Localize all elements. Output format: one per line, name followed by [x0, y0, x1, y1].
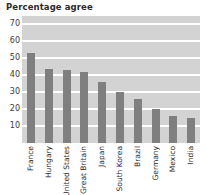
y-axis-tick-label: 30 — [10, 88, 20, 96]
x-axis-tick: Great Britain — [77, 143, 91, 195]
bar — [63, 70, 71, 143]
x-axis-tick-label: Germany — [149, 146, 163, 180]
x-axis-tick-label: South Korea — [113, 146, 127, 191]
bar — [169, 116, 177, 143]
y-axis-tick-label: 40 — [10, 71, 20, 79]
bar — [45, 69, 53, 144]
bar — [98, 82, 106, 143]
bar — [152, 109, 160, 143]
x-axis-tick-label: Brazil — [131, 146, 145, 167]
x-axis: FranceHungaryUnited StatesGreat BritainJ… — [22, 143, 200, 195]
x-axis-tick-label: France — [24, 146, 38, 171]
plot-area — [22, 16, 200, 143]
x-axis-tick-label: Hungary — [42, 146, 56, 178]
bar — [187, 118, 195, 143]
x-axis-tick-label: Great Britain — [77, 146, 91, 194]
gridline — [22, 40, 200, 42]
x-axis-tick-label: Japan — [95, 146, 109, 167]
x-axis-tick: France — [24, 143, 38, 195]
x-axis-tick: Germany — [149, 143, 163, 195]
bar — [134, 99, 142, 143]
x-axis-tick: Mexico — [166, 143, 180, 195]
y-axis: 10203040506070 — [0, 16, 22, 143]
y-axis-tick-label: 50 — [10, 54, 20, 62]
gridline — [22, 23, 200, 25]
x-axis-tick: Brazil — [131, 143, 145, 195]
x-axis-tick: United States — [60, 143, 74, 195]
x-axis-tick-label: India — [184, 146, 198, 164]
bar — [80, 72, 88, 143]
x-axis-tick: Japan — [95, 143, 109, 195]
x-axis-tick-label: United States — [60, 146, 74, 195]
chart-title: Percentage agree — [6, 2, 93, 12]
y-axis-tick-label: 10 — [10, 122, 20, 130]
y-axis-tick-label: 70 — [10, 20, 20, 28]
gridline — [22, 57, 200, 59]
bar — [27, 53, 35, 143]
y-axis-tick-label: 20 — [10, 105, 20, 113]
x-axis-tick: India — [184, 143, 198, 195]
x-axis-tick: South Korea — [113, 143, 127, 195]
y-axis-tick-label: 60 — [10, 37, 20, 45]
x-axis-tick-label: Mexico — [166, 146, 180, 172]
x-axis-tick: Hungary — [42, 143, 56, 195]
bar-chart: Percentage agree 10203040506070 FranceHu… — [0, 0, 206, 195]
bar — [116, 92, 124, 143]
